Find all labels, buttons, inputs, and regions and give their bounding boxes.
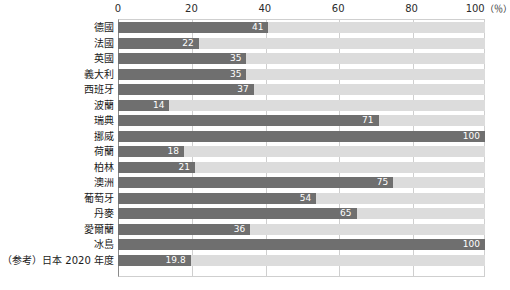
x-axis-tick-labels: 020406080100（％）	[0, 0, 510, 20]
bar-value-label: 35	[230, 53, 241, 64]
category-label: 挪威	[94, 129, 114, 145]
bar-track: 22	[118, 38, 485, 49]
bar: 100	[118, 131, 485, 142]
bar-value-label: 22	[182, 38, 193, 49]
bar-track: 19.8	[118, 255, 485, 266]
bar-value-label: 54	[300, 193, 311, 204]
bar-value-label: 35	[230, 69, 241, 80]
chart-row: 愛爾蘭36	[0, 222, 510, 238]
bar-track: 21	[118, 162, 485, 173]
chart-row: 荷蘭18	[0, 144, 510, 160]
category-label: 愛爾蘭	[84, 222, 114, 238]
bar: 18	[118, 146, 184, 157]
bar-track: 75	[118, 177, 485, 188]
bar: 65	[118, 208, 357, 219]
bar-value-label: 36	[234, 224, 245, 235]
bar-track: 100	[118, 131, 485, 142]
category-label: 義大利	[84, 67, 114, 83]
bar-track: 65	[118, 208, 485, 219]
x-axis-unit-label: （％）	[485, 4, 510, 14]
chart-row: 波蘭14	[0, 98, 510, 114]
bar-track: 35	[118, 69, 485, 80]
bar-track: 18	[118, 146, 485, 157]
category-label: 英國	[94, 51, 114, 67]
bar-value-label: 100	[463, 131, 480, 142]
chart-row: 丹麥65	[0, 206, 510, 222]
x-axis-tick-40: 40	[258, 3, 271, 15]
x-axis-tick-100: 100（％）	[466, 3, 510, 15]
bar-chart: 020406080100（％） 德國41法國22英國35義大利35西班牙37波蘭…	[0, 0, 510, 290]
bar-track: 14	[118, 100, 485, 111]
category-label: 丹麥	[94, 206, 114, 222]
category-label: 澳洲	[94, 175, 114, 191]
chart-row: 西班牙37	[0, 82, 510, 98]
bar: 14	[118, 100, 169, 111]
bar-track: 37	[118, 84, 485, 95]
bar-value-label: 21	[179, 162, 190, 173]
bar-value-label: 71	[362, 115, 373, 126]
bar-value-label: 18	[168, 146, 179, 157]
category-label: 波蘭	[94, 98, 114, 114]
bar: 19.8	[118, 255, 191, 266]
bar-value-label: 19.8	[166, 255, 186, 266]
x-axis-tick-value: 100	[466, 3, 485, 14]
bar: 41	[118, 22, 268, 33]
bar: 37	[118, 84, 254, 95]
category-label: 法國	[94, 36, 114, 52]
bar: 100	[118, 239, 485, 250]
x-axis-tick-80: 80	[405, 3, 418, 15]
bar-track: 100	[118, 239, 485, 250]
bar-track: 36	[118, 224, 485, 235]
category-label: 西班牙	[84, 82, 114, 98]
bar: 21	[118, 162, 195, 173]
chart-row: 瑞典71	[0, 113, 510, 129]
category-label: 荷蘭	[94, 144, 114, 160]
chart-row: 義大利35	[0, 67, 510, 83]
chart-row: （参考）日本 2020 年度19.8	[0, 253, 510, 269]
category-label: （参考）日本 2020 年度	[2, 253, 114, 269]
bar-value-label: 65	[340, 208, 351, 219]
chart-row: 挪威100	[0, 129, 510, 145]
category-label: 冰島	[94, 237, 114, 253]
bar: 22	[118, 38, 199, 49]
bar: 35	[118, 69, 246, 80]
chart-row: 英國35	[0, 51, 510, 67]
bar-track: 41	[118, 22, 485, 33]
chart-row: 澳洲75	[0, 175, 510, 191]
bar: 54	[118, 193, 316, 204]
chart-row: 冰島100	[0, 237, 510, 253]
chart-row: 柏林21	[0, 160, 510, 176]
chart-row: 德國41	[0, 20, 510, 36]
bar-value-label: 75	[377, 177, 388, 188]
bar-track: 35	[118, 53, 485, 64]
bar: 71	[118, 115, 379, 126]
bar-value-label: 100	[463, 239, 480, 250]
bar: 36	[118, 224, 250, 235]
bar-track: 71	[118, 115, 485, 126]
x-axis-tick-20: 20	[185, 3, 198, 15]
category-label: 德國	[94, 20, 114, 36]
chart-rows: 德國41法國22英國35義大利35西班牙37波蘭14瑞典71挪威100荷蘭18柏…	[0, 19, 510, 277]
x-axis-tick-0: 0	[115, 3, 121, 15]
bar-value-label: 14	[153, 100, 164, 111]
category-label: 柏林	[94, 160, 114, 176]
bar: 75	[118, 177, 393, 188]
bar-value-label: 41	[252, 22, 263, 33]
category-label: 葡萄牙	[84, 191, 114, 207]
bar-value-label: 37	[237, 84, 248, 95]
chart-row: 法國22	[0, 36, 510, 52]
bar: 35	[118, 53, 246, 64]
chart-row: 葡萄牙54	[0, 191, 510, 207]
category-label: 瑞典	[94, 113, 114, 129]
bar-track: 54	[118, 193, 485, 204]
x-axis-tick-60: 60	[332, 3, 345, 15]
